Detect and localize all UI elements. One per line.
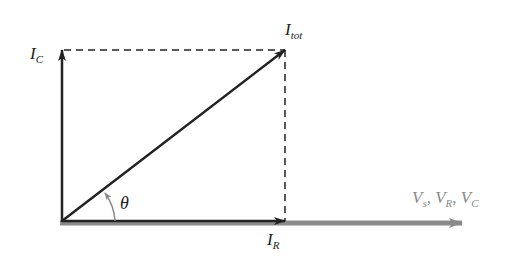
vc-label-sub: C (471, 197, 478, 209)
vc-label-main: V (461, 188, 471, 207)
ic-label: IC (30, 44, 43, 65)
vr-label-main: V (435, 188, 445, 207)
ir-label-sub: R (273, 239, 280, 251)
voltage-label: Vs, VR, VC (412, 188, 479, 209)
ic-label-sub: C (36, 53, 43, 65)
phasor-diagram-canvas (0, 0, 518, 264)
theta-angle-arc (105, 193, 115, 221)
itot-phasor-arrow (62, 50, 285, 221)
ir-label: IR (267, 230, 279, 251)
theta-symbol: θ (120, 193, 129, 213)
vs-label-main: V (412, 188, 422, 207)
itot-label: Itot (285, 20, 302, 41)
itot-label-sub: tot (291, 29, 303, 41)
label-separator: , (452, 188, 461, 207)
label-separator: , (427, 188, 436, 207)
theta-label: θ (120, 193, 129, 214)
